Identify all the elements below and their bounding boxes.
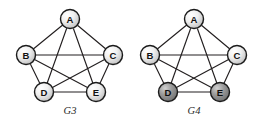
graph-g3: ABCDE G3 — [0, 0, 131, 121]
graph-node-c[interactable]: C — [228, 46, 248, 66]
graph-g3-caption: G3 — [64, 105, 77, 116]
graph-g3-canvas: ABCDE G3 — [0, 0, 131, 121]
graph-g4: ABCDE G4 — [131, 0, 263, 121]
graph-g4-caption: G4 — [188, 105, 202, 116]
graph-node-e[interactable]: E — [87, 83, 107, 103]
graph-node-d[interactable]: D — [35, 83, 55, 103]
graph-g3-edges — [26, 19, 113, 92]
node-label-a: A — [67, 14, 74, 25]
graph-g4-edges — [150, 19, 237, 92]
node-label-b: B — [23, 50, 30, 61]
graph-g3-nodes: ABCDE — [17, 10, 124, 103]
graph-g4-nodes: ABCDE — [141, 10, 248, 103]
graph-node-e[interactable]: E — [211, 83, 231, 103]
graph-node-b[interactable]: B — [141, 46, 161, 66]
node-label-e: E — [217, 87, 223, 98]
node-label-a: A — [191, 14, 198, 25]
graph-node-c[interactable]: C — [104, 46, 124, 66]
graph-node-a[interactable]: A — [185, 10, 205, 30]
graph-figure: ABCDE G3 ABCDE G4 — [0, 0, 263, 121]
node-label-d: D — [41, 87, 48, 98]
node-label-b: B — [147, 50, 154, 61]
node-label-e: E — [93, 87, 99, 98]
node-label-c: C — [110, 50, 117, 61]
graph-node-d[interactable]: D — [159, 83, 179, 103]
graph-node-b[interactable]: B — [17, 46, 37, 66]
node-label-c: C — [234, 50, 241, 61]
graph-node-a[interactable]: A — [61, 10, 81, 30]
graph-g4-canvas: ABCDE G4 — [131, 0, 263, 121]
node-label-d: D — [165, 87, 172, 98]
